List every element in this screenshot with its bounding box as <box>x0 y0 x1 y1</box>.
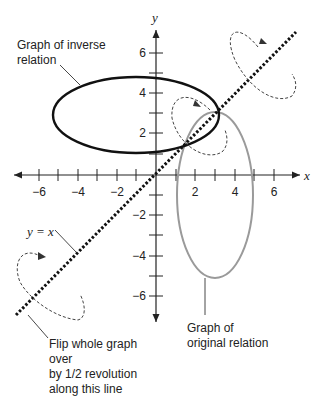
x-axis: x −6 −4 −2 2 4 6 <box>14 168 310 199</box>
y-axis-label: y <box>150 10 158 25</box>
x-tick-label: 4 <box>232 185 239 199</box>
y-tick-label: 4 <box>139 86 146 100</box>
flip-rotation-arrow-icon-bottom <box>17 253 84 320</box>
y-equals-x-label: y = x <box>25 224 54 239</box>
inverse-label-line1: Graph of inverse <box>17 38 106 52</box>
arrowhead-icon <box>259 38 267 44</box>
y-tick-label: −6 <box>132 289 146 303</box>
x-axis-left-arrow-icon <box>14 172 22 179</box>
y-axis: y 6 4 2 −2 −4 −6 <box>132 10 163 322</box>
y-axis-down-arrow-icon <box>153 314 160 322</box>
y-tick-label: 2 <box>139 126 146 140</box>
flip-label-line3: by 1/2 revolution <box>49 367 137 381</box>
inverse-relation-ellipse <box>53 77 219 153</box>
flip-label-line1: Flip whole graph <box>49 337 137 351</box>
arrowhead-icon <box>193 100 201 107</box>
y-tick-label: 6 <box>139 46 146 60</box>
inverse-leader-line <box>60 65 80 85</box>
inverse-label-line2: relation <box>17 53 56 67</box>
x-tick-label: 2 <box>192 185 199 199</box>
inverse-relation-diagram: x −6 −4 −2 2 4 6 y 6 4 2 −2 −4 <box>0 0 324 407</box>
original-label-line1: Graph of <box>187 321 234 335</box>
original-label-line2: original relation <box>187 336 268 350</box>
x-axis-label: x <box>303 168 310 183</box>
x-tick-label: −2 <box>110 185 124 199</box>
original-relation-ellipse <box>177 112 253 278</box>
yx-leader-line <box>55 230 76 252</box>
x-axis-right-arrow-icon <box>292 172 300 179</box>
y-tick-label: −2 <box>132 208 146 222</box>
x-tick-label: 6 <box>271 185 278 199</box>
flip-label-line4: along this line <box>49 382 123 396</box>
y-tick-label: −4 <box>132 249 146 263</box>
flip-leader-line <box>28 315 48 338</box>
x-tick-label: −4 <box>71 185 85 199</box>
x-tick-label: −6 <box>32 185 46 199</box>
y-axis-up-arrow-icon <box>153 30 160 38</box>
flip-label-line2: over <box>49 352 72 366</box>
arrowhead-icon <box>38 252 46 260</box>
